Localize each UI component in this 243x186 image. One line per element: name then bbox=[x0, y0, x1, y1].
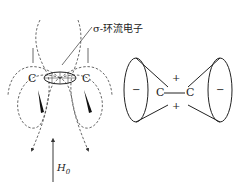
field-lines bbox=[8, 20, 112, 150]
wedge-bond-right bbox=[84, 90, 92, 113]
wedge-bond-left bbox=[38, 90, 44, 113]
label-leader bbox=[62, 27, 92, 65]
sign-top: + bbox=[172, 72, 180, 83]
sign-left-cone: − bbox=[132, 84, 140, 95]
sign-right-cone: − bbox=[216, 84, 224, 95]
atom-c-left: C bbox=[28, 72, 36, 85]
field-label: H0 bbox=[57, 162, 70, 176]
atom-c-right: C bbox=[82, 72, 90, 85]
cone-atom-c-right: C bbox=[186, 86, 194, 99]
sign-bottom: + bbox=[172, 100, 180, 111]
cone-atom-c-left: C bbox=[156, 86, 164, 99]
sigma-ring-label: σ-环流电子 bbox=[93, 20, 143, 35]
